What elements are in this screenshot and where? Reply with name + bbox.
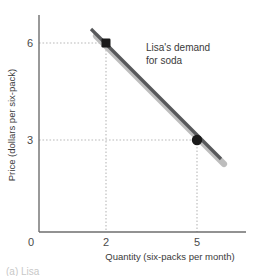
y-axis-title: Price (dollars per six-pack) <box>6 69 17 181</box>
y-tick-label-3: 3 <box>27 134 33 146</box>
annotation-line-2: for soda <box>146 55 183 66</box>
data-point-2-6 <box>102 39 111 48</box>
figure-caption-fragment: (a) Lisa <box>6 266 40 276</box>
y-tick-label-6: 6 <box>27 37 33 49</box>
data-point-5-3 <box>192 135 202 145</box>
origin-label: 0 <box>28 236 34 248</box>
demand-curve-chart: 6 3 0 2 5 Price (dollars per six-pack) Q… <box>0 0 261 276</box>
x-tick-label-2: 2 <box>103 236 109 248</box>
chart-figure: 6 3 0 2 5 Price (dollars per six-pack) Q… <box>0 0 261 276</box>
annotation-line-1: Lisa's demand <box>146 42 210 53</box>
x-axis-title: Quantity (six-packs per month) <box>105 251 234 262</box>
x-tick-label-5: 5 <box>194 236 200 248</box>
